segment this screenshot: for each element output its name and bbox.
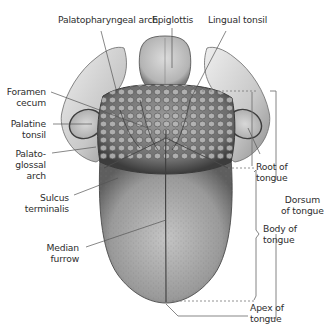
dorsum-bracket xyxy=(270,91,276,318)
body-bracket xyxy=(254,170,259,300)
label-palatoglossal-arch: Palato- glossal arch xyxy=(15,148,46,181)
leader-apex xyxy=(166,304,248,316)
label-body-of-tongue: Body of tongue xyxy=(263,223,297,245)
label-line: Palatine xyxy=(11,118,46,129)
label-line: arch xyxy=(15,170,46,181)
label-sulcus-terminalis: Sulcus terminalis xyxy=(25,192,69,214)
label-line: Foramen xyxy=(7,86,46,97)
label-line: tonsil xyxy=(11,129,46,140)
label-lingual-tonsil: Lingual tonsil xyxy=(208,14,267,25)
label-foramen-cecum: Foramen cecum xyxy=(7,86,46,108)
label-line: tongue xyxy=(263,234,297,245)
label-line: terminalis xyxy=(25,203,69,214)
label-line: glossal xyxy=(15,159,46,170)
label-line: Body of xyxy=(263,223,297,234)
label-line: Palato- xyxy=(15,148,46,159)
label-apex-of-tongue: Apex of tongue xyxy=(250,302,284,324)
label-root-of-tongue: Root of tongue xyxy=(256,161,288,183)
label-line: Median xyxy=(46,242,79,253)
label-median-furrow: Median furrow xyxy=(46,242,79,264)
label-line: tongue xyxy=(256,172,288,183)
label-line: of tongue xyxy=(281,205,324,216)
label-line: cecum xyxy=(7,97,46,108)
label-line: Root of xyxy=(256,161,288,172)
label-line: Apex of xyxy=(250,302,284,313)
label-line: Sulcus xyxy=(25,192,69,203)
label-line: furrow xyxy=(46,253,79,264)
label-dorsum-of-tongue: Dorsum of tongue xyxy=(281,194,324,216)
label-epiglottis: Epiglottis xyxy=(152,14,193,25)
label-palatine-tonsil: Palatine tonsil xyxy=(11,118,46,140)
label-line: Dorsum xyxy=(281,194,324,205)
label-palatopharyngeal-arch: Palatopharyngeal arch xyxy=(58,14,158,25)
label-line: tongue xyxy=(250,313,284,324)
